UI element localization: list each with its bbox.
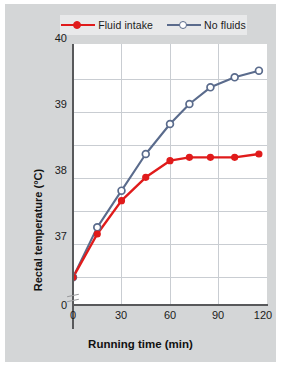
open-circle-marker-icon [231,74,238,81]
filled-circle-marker-icon [186,154,192,160]
filled-circle-marker-icon [207,154,213,160]
x-tick-120: 120 [248,309,278,321]
open-circle-marker-icon [256,67,263,74]
x-tick-30: 30 [106,309,136,321]
line-no-fluids [73,71,259,278]
points-fluid-intake [73,151,262,280]
filled-circle-marker-icon [94,231,100,237]
legend-label-fluid-intake: Fluid intake [98,19,153,31]
filled-circle-marker-icon [232,154,238,160]
y-axis-title-wrap: Rectal temperature (°C) [13,64,33,264]
filled-circle-marker-icon [256,151,262,157]
y-tick-39: 39 [37,98,67,110]
open-circle-marker-icon [179,21,187,29]
legend-item-fluid-intake: Fluid intake [61,19,153,31]
plot-area [73,44,267,304]
open-circle-marker-icon [186,101,193,108]
open-circle-marker-icon [142,151,149,158]
axis-break-icon [67,295,79,304]
y-tick-40: 40 [37,32,67,44]
filled-circle-marker-icon [73,21,81,29]
filled-circle-marker-icon [143,174,149,180]
filled-circle-marker-icon [167,158,173,164]
legend-label-no-fluids: No fluids [204,19,246,31]
chart-legend: Fluid intake No fluids [60,15,247,35]
legend-line-marker-icon [167,20,201,31]
x-tick-90: 90 [203,309,233,321]
open-circle-marker-icon [94,224,101,231]
x-axis-title: Running time (min) [5,338,276,350]
open-circle-marker-icon [118,187,125,194]
y-axis-title: Rectal temperature (°C) [32,135,44,325]
open-circle-marker-icon [207,84,214,91]
series-plot [73,44,267,304]
chart-figure: Fluid intake No fluids [5,4,276,362]
points-no-fluids [73,67,262,280]
x-tick-60: 60 [155,309,185,321]
y-axis-line [72,44,74,329]
x-tick-0: 0 [58,309,88,321]
x-axis-line [72,304,268,306]
legend-item-no-fluids: No fluids [167,19,246,31]
line-fluid-intake [73,154,259,277]
filled-circle-marker-icon [119,198,125,204]
open-circle-marker-icon [167,121,174,128]
